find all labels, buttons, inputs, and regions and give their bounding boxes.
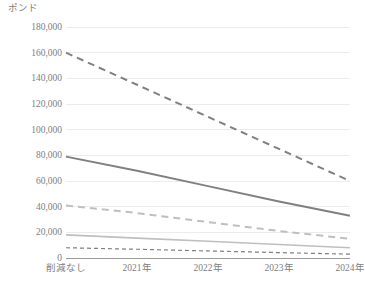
x-axis-tick-label: 2022年: [194, 262, 223, 274]
series-line-1: [66, 53, 350, 181]
y-axis-tick-label: 180,000: [4, 22, 62, 32]
x-axis-tick-label: 2021年: [123, 262, 152, 274]
y-axis-tick-label: 40,000: [4, 202, 62, 212]
series-lines: [66, 53, 350, 254]
y-axis-tick-label: 20,000: [4, 227, 62, 237]
plot-svg: [66, 27, 350, 258]
y-axis-tick-label: 160,000: [4, 48, 62, 58]
x-axis-tick-label: 2023年: [265, 262, 294, 274]
y-axis-tick-label: 140,000: [4, 73, 62, 83]
y-axis-tick-labels: 180,000160,000140,000120,000100,00080,00…: [0, 0, 62, 282]
y-axis-tick-label: 60,000: [4, 176, 62, 186]
x-axis-tick-label: 削減なし: [46, 262, 86, 274]
y-axis-tick-label: 80,000: [4, 150, 62, 160]
y-axis-tick-label: 100,000: [4, 125, 62, 135]
x-axis-tick-labels: 削減なし2021年2022年2023年2024年: [66, 262, 350, 280]
series-line-4: [66, 235, 350, 248]
series-line-3: [66, 205, 350, 238]
gridlines: [66, 27, 350, 232]
plot-area: [66, 27, 350, 258]
y-axis-tick-label: 120,000: [4, 99, 62, 109]
series-line-5: [66, 248, 350, 254]
x-axis-tick-label: 2024年: [336, 262, 365, 274]
